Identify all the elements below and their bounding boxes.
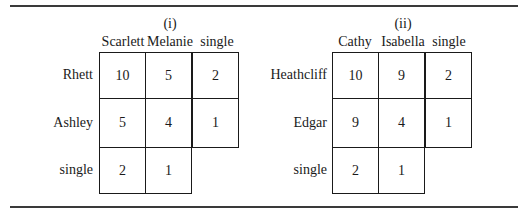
table-cell: 2 <box>332 147 379 194</box>
row-header: Edgar <box>237 115 327 131</box>
table-cell: 10 <box>99 52 146 99</box>
table-cell: 1 <box>378 147 425 194</box>
table-cell: 4 <box>378 98 425 148</box>
row-header: Rhett <box>3 67 93 83</box>
column-header: single <box>419 34 479 50</box>
row-header: Ashley <box>3 115 93 131</box>
panel-label: (i) <box>140 16 200 32</box>
table-cell: 1 <box>425 98 472 148</box>
row-header: Heathcliff <box>237 67 327 83</box>
bottom-rule <box>10 206 518 208</box>
row-header: single <box>237 162 327 178</box>
table-cell: 9 <box>332 98 379 148</box>
table-cell: 2 <box>192 52 239 99</box>
panel-label: (ii) <box>373 16 433 32</box>
top-rule <box>10 5 518 7</box>
table-cell: 5 <box>145 52 192 99</box>
table-cell: 2 <box>425 52 472 99</box>
table-cell: 1 <box>145 147 192 194</box>
table-cell: 10 <box>332 52 379 99</box>
row-header: single <box>3 162 93 178</box>
table-cell: 5 <box>99 98 146 148</box>
table-cell: 9 <box>378 52 425 99</box>
column-header: single <box>187 34 247 50</box>
table-cell: 2 <box>99 147 146 194</box>
table-cell: 1 <box>192 98 239 148</box>
table-cell: 4 <box>145 98 192 148</box>
